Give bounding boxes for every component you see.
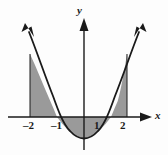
y-axis-label: y xyxy=(77,5,82,16)
x-tick-label-minus-1: –1 xyxy=(51,120,62,131)
curve-right-arrowhead-icon xyxy=(134,23,147,37)
y-axis-arrowhead-icon xyxy=(80,18,89,31)
plot-canvas xyxy=(0,0,168,155)
x-tick-label-minus-2: –2 xyxy=(23,120,34,131)
x-axis-arrowhead-icon xyxy=(140,113,152,122)
shaded-region-left xyxy=(30,54,57,117)
x-tick-label-2: 2 xyxy=(120,120,126,131)
x-axis-label: x xyxy=(155,110,161,121)
curve-left-arrowhead-icon xyxy=(22,23,35,37)
x-tick-label-1: 1 xyxy=(94,120,100,131)
parabola-area-figure: –2 –1 1 2 x y xyxy=(0,0,168,155)
